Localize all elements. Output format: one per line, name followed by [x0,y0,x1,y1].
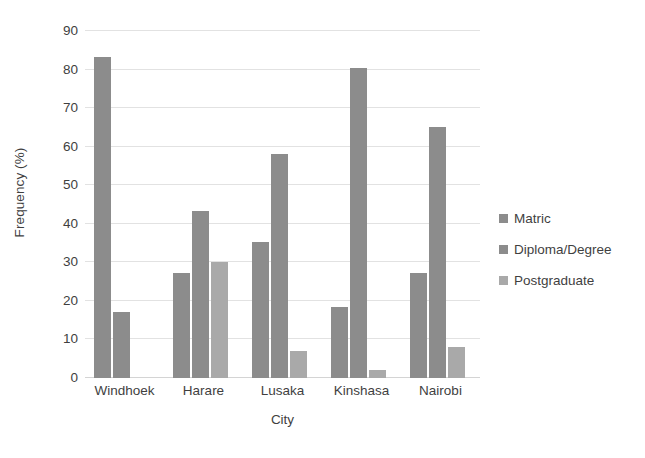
bar-group [243,31,322,378]
x-axis-tick-label: Lusaka [261,384,305,399]
x-axis-tick-label: Kinshasa [334,384,390,399]
x-axis-tick-label: Nairobi [419,384,462,399]
bar-group [401,31,480,378]
legend-swatch-icon [499,245,508,254]
bar [350,68,367,378]
y-axis-tick-label: 20 [48,294,78,308]
x-axis-title: City [85,412,480,427]
bar-group [85,31,164,378]
bar [173,273,190,378]
y-axis-tick-labels: 0102030405060708090 [38,31,78,378]
bar [369,370,386,378]
bar [429,127,446,378]
y-axis-tick-label: 60 [48,140,78,154]
y-axis-tick-label: 80 [48,63,78,77]
bar [271,154,288,378]
legend-label: Diploma/Degree [514,243,612,257]
bar [448,347,465,378]
bar [331,307,348,378]
y-axis-tick-label: 10 [48,333,78,347]
bar [410,273,427,378]
bar [211,262,228,378]
bar [94,57,111,378]
legend-label: Postgraduate [514,274,594,288]
plot-area [85,31,480,378]
bar [113,312,130,378]
legend-swatch-icon [499,214,508,223]
legend-item[interactable]: Diploma/Degree [499,234,639,265]
y-axis-title: Frequency (%) [0,0,40,385]
legend: MatricDiploma/DegreePostgraduate [499,203,639,296]
y-axis-tick-label: 70 [48,101,78,115]
bar [252,242,269,378]
bar-group [164,31,243,378]
x-axis-tick-label: Windhoek [94,384,154,399]
y-axis-tick-label: 50 [48,178,78,192]
y-axis-tick-label: 40 [48,217,78,231]
bar-group [322,31,401,378]
legend-item[interactable]: Matric [499,203,639,234]
bar-chart: Frequency (%) 0102030405060708090 Windho… [0,0,645,458]
y-axis-tick-label: 90 [48,24,78,38]
x-axis-tick-labels: WindhoekHarareLusakaKinshasaNairobi [85,384,480,406]
legend-swatch-icon [499,276,508,285]
legend-label: Matric [514,212,551,226]
bar [290,351,307,378]
bar [192,211,209,378]
bars-layer [85,31,480,378]
y-axis-tick-label: 30 [48,256,78,270]
y-axis-title-label: Frequency (%) [13,148,28,238]
y-axis-tick-label: 0 [48,371,78,385]
legend-item[interactable]: Postgraduate [499,265,639,296]
x-axis-tick-label: Harare [183,384,224,399]
